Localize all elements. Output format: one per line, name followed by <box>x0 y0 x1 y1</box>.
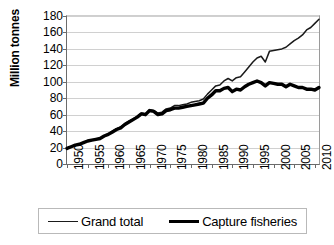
chart-legend: Grand total Capture fisheries <box>38 208 307 234</box>
x-tick-mark <box>191 164 192 168</box>
legend-swatch-line-thin <box>48 221 78 222</box>
x-tick-mark <box>212 164 213 168</box>
legend-swatch-line-thick <box>169 220 199 223</box>
x-tick-mark <box>88 164 89 168</box>
x-tick-mark <box>274 164 275 168</box>
legend-label: Capture fisheries <box>202 214 297 229</box>
y-tick-label: 140 <box>23 44 63 54</box>
y-tick-label: 40 <box>23 126 63 136</box>
x-tick-mark <box>315 164 316 168</box>
x-tick-mark <box>170 164 171 168</box>
y-tick-label: 160 <box>23 27 63 37</box>
y-tick-label: 180 <box>23 11 63 21</box>
plot-area: 020406080100120140160180 195019551960196… <box>66 15 320 165</box>
x-tick-mark <box>253 164 254 168</box>
y-tick-label: 20 <box>23 143 63 153</box>
legend-label: Grand total <box>81 214 143 229</box>
series-line-capture-fisheries <box>67 81 319 148</box>
x-tick-mark <box>108 164 109 168</box>
y-tick-label: 100 <box>23 77 63 87</box>
y-tick-label: 60 <box>23 110 63 120</box>
legend-item-capture-fisheries: Capture fisheries <box>169 214 297 229</box>
y-tick-label: 0 <box>23 159 63 169</box>
y-tick-label: 120 <box>23 60 63 70</box>
x-tick-label: 2010 <box>320 145 334 171</box>
x-tick-mark <box>129 164 130 168</box>
footer-partial-text <box>2 240 172 245</box>
x-tick-mark <box>150 164 151 168</box>
x-tick-mark <box>294 164 295 168</box>
legend-item-grand-total: Grand total <box>48 214 143 229</box>
series-group <box>67 16 319 164</box>
y-tick-label: 80 <box>23 93 63 103</box>
x-tick-mark <box>232 164 233 168</box>
y-axis-title: Million tonnes <box>8 0 24 108</box>
x-tick-mark <box>67 164 68 168</box>
